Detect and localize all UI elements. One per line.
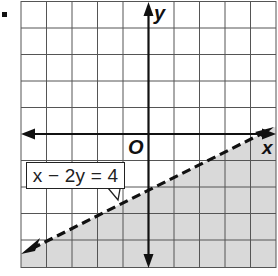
x-axis-label: x — [262, 137, 273, 159]
equation-label: x − 2y = 4 — [26, 162, 125, 189]
x-axis-left-arrow-icon — [21, 129, 35, 140]
callout-pointer — [108, 188, 120, 200]
y-axis-label: y — [154, 2, 165, 25]
equation-text: x − 2y = 4 — [33, 165, 118, 187]
y-axis-up-arrow-icon — [144, 2, 154, 16]
origin-label: O — [128, 136, 144, 159]
